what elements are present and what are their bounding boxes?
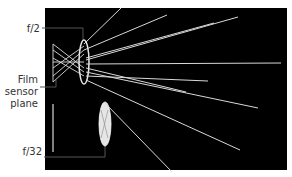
label-f32: f/32 (8, 146, 42, 158)
lens-f32-icon (99, 102, 111, 146)
label-sensor-line2: sensor (2, 86, 38, 98)
label-sensor-line3: plane (2, 98, 38, 110)
label-sensor-plane: Film sensor plane (2, 74, 38, 110)
label-f2: f/2 (14, 23, 40, 35)
aperture-ray-diagram (0, 0, 292, 177)
rays-f2 (84, 8, 281, 150)
leader-lines (40, 28, 105, 157)
label-sensor-line1: Film (2, 74, 38, 86)
ray-f32 (104, 102, 172, 172)
